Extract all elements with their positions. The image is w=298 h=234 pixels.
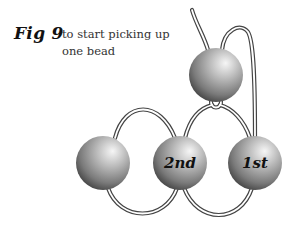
bead-first: 1st [228, 136, 282, 190]
bead-label-first: 1st [242, 154, 268, 172]
bead-left [76, 136, 130, 190]
bead-second: 2nd [153, 136, 207, 190]
beading-diagram: 2nd 1st [0, 0, 298, 234]
bead-label-second: 2nd [163, 154, 196, 172]
bead-top [189, 48, 243, 102]
